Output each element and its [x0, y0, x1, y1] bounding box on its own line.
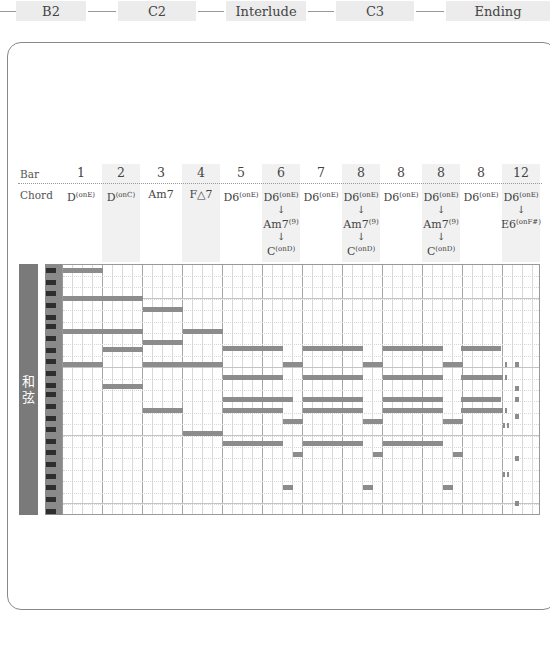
note-block	[373, 452, 383, 457]
note-block	[363, 362, 383, 367]
section-connector	[308, 11, 334, 12]
section-connector	[198, 11, 224, 12]
black-key	[46, 324, 56, 329]
piano-keyboard	[45, 264, 62, 515]
note-block	[143, 362, 183, 367]
note-block	[63, 329, 143, 334]
chord-name: D6(onE)	[461, 188, 501, 205]
note-block	[515, 362, 519, 367]
note-block	[363, 485, 373, 490]
chord-cell: D(onC)	[101, 188, 141, 205]
note-block	[293, 452, 303, 457]
black-key	[46, 348, 56, 353]
pitch-line	[63, 344, 539, 345]
pitch-line	[63, 322, 539, 323]
down-arrow-icon: ↓	[501, 205, 541, 215]
down-arrow-icon: ↓	[421, 205, 461, 215]
chord-cell: D6(onE)	[301, 188, 341, 205]
chord-name: Am7(9)	[261, 215, 301, 232]
black-key	[46, 315, 56, 320]
section-tag-label: 和 弦	[22, 374, 35, 406]
black-key	[46, 268, 56, 273]
black-key	[46, 291, 56, 296]
note-block	[303, 441, 363, 446]
chord-name: D6(onE)	[381, 188, 421, 205]
black-key	[46, 450, 56, 455]
black-key	[46, 404, 56, 409]
chord-cell: D6(onE)↓Am7(9)↓C(onD)	[421, 188, 461, 259]
note-block	[223, 397, 283, 402]
octave-line	[63, 367, 539, 368]
note-block	[383, 408, 443, 413]
bar-number: 1	[61, 165, 101, 180]
bar-number: 7	[301, 165, 341, 180]
black-key	[46, 383, 56, 388]
black-key	[46, 280, 56, 285]
black-key	[46, 336, 56, 341]
pitch-line	[63, 287, 539, 288]
down-arrow-icon: ↓	[261, 205, 301, 215]
chord-row-label: Chord	[20, 189, 53, 201]
chord-name: D(onE)	[61, 188, 101, 205]
note-block	[143, 408, 183, 413]
note-block	[223, 375, 283, 380]
chord-cell: D6(onE)	[221, 188, 261, 205]
bar-number: 8	[461, 165, 501, 180]
note-block	[303, 408, 363, 413]
chord-name: Am7(9)	[421, 215, 461, 232]
pitch-line	[63, 276, 539, 277]
down-arrow-icon: ↓	[421, 232, 461, 242]
section-navigation: B2C2InterludeC3Ending	[0, 0, 550, 22]
section-tab-c3[interactable]: C3	[336, 1, 414, 21]
note-block	[383, 346, 443, 351]
piano-roll-grid	[62, 264, 540, 515]
section-connector	[416, 11, 444, 12]
down-arrow-icon: ↓	[341, 232, 381, 242]
note-block	[461, 375, 503, 380]
note-block	[461, 397, 501, 402]
note-block	[383, 441, 443, 446]
note-block	[507, 423, 509, 428]
chord-name: D6(onE)	[301, 188, 341, 205]
note-block	[143, 340, 183, 345]
section-tab-b2[interactable]: B2	[16, 1, 86, 21]
note-block	[183, 362, 223, 367]
bar-row-label: Bar	[20, 168, 39, 180]
black-key	[46, 485, 56, 490]
chord-cell: D6(onE)↓Am7(9)↓C(onD)	[261, 188, 301, 259]
note-block	[63, 362, 103, 367]
note-block	[223, 441, 283, 446]
octave-line	[63, 503, 539, 504]
section-tab-interlude[interactable]: Interlude	[226, 1, 306, 21]
chord-name: D6(onE)	[421, 188, 461, 205]
chord-cell: D6(onE)↓E6(onF#)	[501, 188, 541, 232]
bar-number: 6	[261, 165, 301, 180]
note-block	[515, 414, 519, 419]
note-block	[461, 346, 501, 351]
chord-cell: D6(onE)↓Am7(9)↓C(onD)	[341, 188, 381, 259]
bar-number: 8	[421, 165, 461, 180]
chord-name: D6(onE)	[501, 188, 541, 205]
down-arrow-icon: ↓	[261, 232, 301, 242]
chord-cell: D(onE)	[61, 188, 101, 205]
note-block	[183, 431, 223, 436]
chord-name: C(onD)	[341, 242, 381, 259]
note-block	[515, 501, 519, 506]
note-block	[283, 485, 293, 490]
bar-number: 3	[141, 165, 181, 180]
chord-cell: Am7	[141, 188, 181, 202]
bar-number: 5	[221, 165, 261, 180]
note-block	[283, 397, 293, 402]
note-block	[515, 397, 519, 402]
note-block	[143, 307, 183, 312]
section-tag-chord: 和 弦	[19, 264, 38, 515]
note-block	[443, 362, 463, 367]
black-key	[46, 392, 56, 397]
note-block	[461, 408, 503, 413]
section-tab-c2[interactable]: C2	[118, 1, 196, 21]
header-divider	[18, 183, 542, 184]
section-tab-ending[interactable]: Ending	[446, 1, 550, 21]
chord-name: D(onC)	[101, 188, 141, 205]
note-block	[443, 485, 453, 490]
note-block	[283, 362, 303, 367]
